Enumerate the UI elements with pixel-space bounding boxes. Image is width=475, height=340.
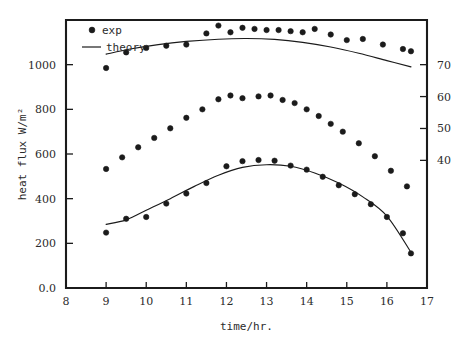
x-tick-label: 8 xyxy=(63,295,70,308)
legend-label-theory: theory xyxy=(106,41,146,54)
legend-label-exp: exp xyxy=(102,24,122,37)
x-tick-label: 11 xyxy=(179,295,193,308)
exp-data-point xyxy=(288,28,293,33)
legend: exptheory xyxy=(82,24,146,54)
exp-data-point xyxy=(388,168,393,173)
heat-flux-scatter-chart: 8910111213141516170.02004006008001000405… xyxy=(0,0,475,340)
x-tick-label: 10 xyxy=(139,295,153,308)
exp-data-point xyxy=(252,26,257,31)
y-tick-label: 0.0 xyxy=(39,282,57,295)
exp-data-point xyxy=(356,141,361,146)
x-tick-label: 14 xyxy=(300,295,314,308)
exp-data-point xyxy=(224,164,229,169)
exp-data-point xyxy=(103,166,108,171)
exp-series-upper-exp xyxy=(103,23,413,71)
exp-data-point xyxy=(280,97,285,102)
exp-data-point xyxy=(372,154,377,159)
y-tick-label: 1000 xyxy=(28,59,56,72)
x-axis-title: time/hr. xyxy=(220,320,273,333)
exp-data-point xyxy=(119,155,124,160)
exp-data-point xyxy=(272,158,277,163)
theory-curve-upper-theory xyxy=(106,39,411,67)
y-right-tick-label: 60 xyxy=(437,91,451,104)
exp-data-point xyxy=(312,26,317,31)
exp-data-point xyxy=(168,126,173,131)
exp-data-point xyxy=(408,49,413,54)
y-right-tick-label: 70 xyxy=(437,59,451,72)
exp-data-point xyxy=(152,135,157,140)
exp-data-point xyxy=(360,36,365,41)
y-right-tick-label: 40 xyxy=(437,154,451,167)
exp-data-point xyxy=(256,157,261,162)
theory-curve-lower-theory xyxy=(106,165,411,253)
y-tick-label: 800 xyxy=(35,103,56,116)
y-tick-label: 600 xyxy=(35,148,56,161)
exp-data-point xyxy=(228,30,233,35)
exp-data-point xyxy=(304,107,309,112)
exp-data-point xyxy=(264,27,269,32)
exp-data-point xyxy=(340,129,345,134)
x-tick-label: 16 xyxy=(380,295,394,308)
exp-series-lower-exp xyxy=(103,157,413,256)
y-right-tick-label: 50 xyxy=(437,122,451,135)
plot-frame xyxy=(66,20,427,288)
legend-marker-exp xyxy=(89,27,95,33)
y-tick-label: 200 xyxy=(35,237,56,250)
exp-data-point xyxy=(404,184,409,189)
exp-data-point xyxy=(103,65,108,70)
exp-data-point xyxy=(268,93,273,98)
exp-data-point xyxy=(328,121,333,126)
exp-data-point xyxy=(344,37,349,42)
exp-data-point xyxy=(240,25,245,30)
exp-data-point xyxy=(144,214,149,219)
exp-data-point xyxy=(200,107,205,112)
exp-data-point xyxy=(400,46,405,51)
exp-data-point xyxy=(184,115,189,120)
exp-data-point xyxy=(228,93,233,98)
exp-data-point xyxy=(136,145,141,150)
y-axis-title: heat flux W/m² xyxy=(16,108,29,201)
exp-data-point xyxy=(276,27,281,32)
x-tick-label: 15 xyxy=(340,295,354,308)
exp-data-point xyxy=(328,32,333,37)
x-tick-label: 17 xyxy=(420,295,434,308)
exp-data-point xyxy=(256,94,261,99)
exp-data-point xyxy=(316,113,321,118)
y-tick-label: 400 xyxy=(35,193,56,206)
figure-container: 8910111213141516170.02004006008001000405… xyxy=(0,0,475,340)
exp-data-point xyxy=(216,97,221,102)
x-tick-label: 9 xyxy=(103,295,110,308)
exp-data-point xyxy=(216,23,221,28)
x-tick-label: 13 xyxy=(260,295,274,308)
exp-data-point xyxy=(184,42,189,47)
exp-data-point xyxy=(300,30,305,35)
exp-data-point xyxy=(103,230,108,235)
exp-data-point xyxy=(240,95,245,100)
exp-data-point xyxy=(400,231,405,236)
exp-data-point xyxy=(240,158,245,163)
x-tick-label: 12 xyxy=(219,295,233,308)
exp-data-point xyxy=(292,100,297,105)
exp-data-point xyxy=(204,31,209,36)
exp-data-point xyxy=(380,42,385,47)
exp-series-middle-exp xyxy=(103,93,409,189)
